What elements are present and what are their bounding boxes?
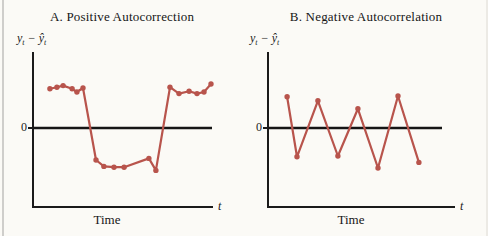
chart-b-x-axis-label: Time <box>244 212 458 228</box>
data-point-marker <box>201 89 206 94</box>
panel-negative-autocorrelation: B. Negative Autocorrelation yt − ŷt 0 Ti… <box>244 0 488 236</box>
chart-b-canvas <box>244 0 488 236</box>
data-point-marker <box>395 93 400 98</box>
series-line <box>287 96 419 168</box>
data-point-marker <box>167 85 172 90</box>
data-point-marker <box>146 156 151 161</box>
data-point-marker <box>80 85 85 90</box>
data-point-marker <box>194 91 199 96</box>
data-point-marker <box>284 94 289 99</box>
data-point-marker <box>69 86 74 91</box>
data-point-marker <box>176 91 181 96</box>
data-point-marker <box>208 81 213 86</box>
data-point-marker <box>153 168 158 173</box>
data-point-marker <box>47 86 52 91</box>
chart-a-x-axis-label: Time <box>0 212 214 228</box>
data-point-marker <box>93 157 98 162</box>
data-point-marker <box>355 106 360 111</box>
data-point-marker <box>315 98 320 103</box>
chart-b-residual-series <box>284 93 421 170</box>
data-point-marker <box>74 89 79 94</box>
data-point-marker <box>335 153 340 158</box>
data-point-marker <box>416 160 421 165</box>
chart-b-x-end-label: t <box>460 199 463 214</box>
data-point-marker <box>375 165 380 170</box>
panel-positive-autocorrelation: A. Positive Autocorrection yt − ŷt 0 Tim… <box>0 0 244 236</box>
data-point-marker <box>54 85 59 90</box>
chart-a-canvas <box>0 0 244 236</box>
data-point-marker <box>294 154 299 159</box>
data-point-marker <box>111 165 116 170</box>
chart-a-x-end-label: t <box>218 199 221 214</box>
data-point-marker <box>60 83 65 88</box>
data-point-marker <box>186 89 191 94</box>
data-point-marker <box>121 165 126 170</box>
data-point-marker <box>101 164 106 169</box>
